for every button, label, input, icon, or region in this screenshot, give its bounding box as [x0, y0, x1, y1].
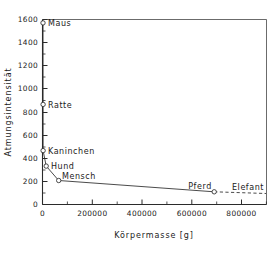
data-point-maus	[41, 21, 45, 25]
data-point-mensch	[57, 178, 61, 182]
data-point-ratte	[41, 102, 45, 106]
y-axis-title: Atmungsintensität	[4, 68, 13, 157]
chart-figure: 0 200 400 600 800 1000 1200 1400 1600 0 …	[0, 0, 278, 253]
x-tick-label-400000: 400000	[127, 209, 157, 218]
data-label-hund: Hund	[51, 162, 74, 171]
y-tick-label-1400: 1400	[18, 38, 38, 47]
data-point-kaninchen	[41, 148, 45, 152]
chart-svg: 0 200 400 600 800 1000 1200 1400 1600 0 …	[0, 0, 278, 253]
data-label-maus: Maus	[48, 19, 71, 28]
y-tick-label-800: 800	[23, 108, 38, 117]
data-label-kaninchen: Kaninchen	[48, 147, 95, 156]
y-tick-label-1600: 1600	[18, 15, 38, 24]
y-tick-label-1200: 1200	[18, 61, 38, 70]
x-axis-title: Körpermasse [g]	[114, 231, 194, 240]
x-tick-label-200000: 200000	[77, 209, 107, 218]
y-tick-label-600: 600	[23, 131, 38, 140]
x-tick-label-800000: 800000	[226, 209, 256, 218]
x-tick-label-0: 0	[40, 209, 45, 218]
data-point-pferd	[212, 190, 216, 194]
data-label-mensch: Mensch	[62, 172, 96, 181]
y-tick-label-200: 200	[23, 177, 38, 186]
data-label-elefant: Elefant	[232, 183, 264, 192]
y-tick-label-0: 0	[33, 200, 38, 209]
y-tick-label-1000: 1000	[18, 84, 38, 93]
x-tick-label-600000: 600000	[177, 209, 207, 218]
data-label-ratte: Ratte	[48, 101, 72, 110]
data-label-pferd: Pferd	[188, 182, 212, 191]
data-point-hund	[44, 164, 48, 168]
y-tick-label-400: 400	[23, 154, 38, 163]
